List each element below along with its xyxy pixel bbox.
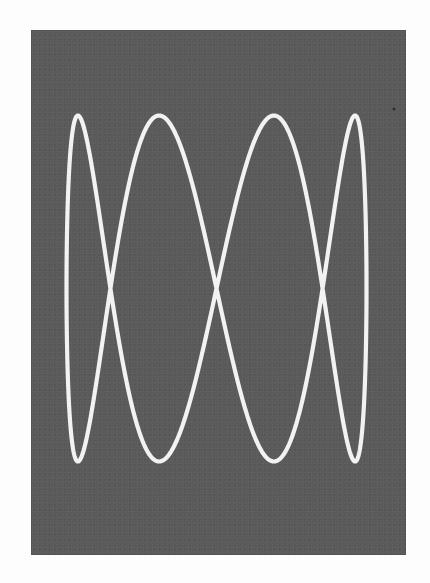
- lissajous-curve: [67, 116, 367, 462]
- dust-speck: [393, 108, 396, 111]
- lissajous-plot: [0, 0, 430, 583]
